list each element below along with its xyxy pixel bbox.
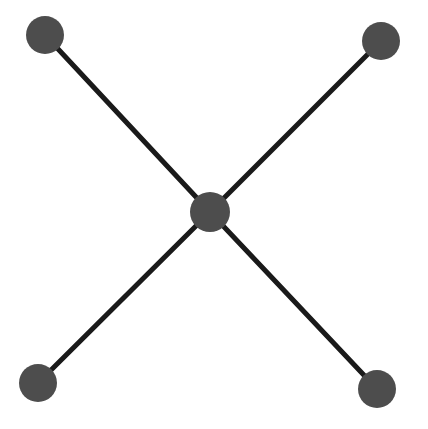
graph-node-bottom-right[interactable] — [358, 370, 396, 408]
edge-center-top-right[interactable] — [210, 41, 381, 212]
edge-center-bottom-right[interactable] — [210, 212, 377, 389]
graph-node-bottom-left[interactable] — [19, 364, 57, 402]
graph-node-top-right[interactable] — [362, 22, 400, 60]
graph-node-top-left[interactable] — [26, 16, 64, 54]
star-graph-diagram — [0, 0, 428, 429]
edge-center-bottom-left[interactable] — [38, 212, 210, 383]
edge-center-top-left[interactable] — [45, 35, 210, 212]
graph-canvas — [0, 0, 428, 429]
graph-node-center[interactable] — [190, 192, 230, 232]
